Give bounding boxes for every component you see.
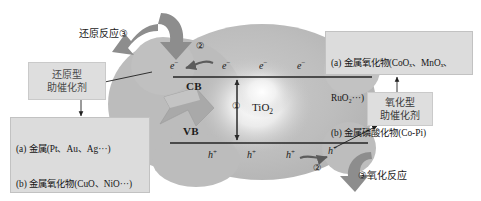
oxidation-material-item: RuO₂···) xyxy=(331,93,468,105)
electron-carrier: e− xyxy=(222,59,230,71)
reduction-cocatalyst-line1: 还原型 xyxy=(52,68,82,81)
reduction-materials-box[interactable]: (a) 金属(Pt、Au、Ag···) (b) 金属氧化物(CuO、NiO···… xyxy=(10,117,150,193)
reduction-cocatalyst-box[interactable]: 还原型 助催化剂 xyxy=(28,62,106,100)
hole-carrier: h+ xyxy=(208,148,217,160)
conduction-band-label: CB xyxy=(186,80,202,92)
electron-carrier: e− xyxy=(170,59,178,71)
electron-carrier: e− xyxy=(297,59,305,71)
semiconductor-formula: TiO2 xyxy=(252,101,273,116)
step-electron-migration-number: ② xyxy=(196,40,205,51)
oxidation-reaction-label: ③氧化反应 xyxy=(358,167,407,182)
reduction-reaction-label: 还原反应③ xyxy=(79,25,128,40)
oxidation-materials-box[interactable]: (a) 金属氧化物(CoOₓ、MnOₓ、 RuO₂···) (b) 金属磷酸化物… xyxy=(325,31,473,75)
step-hole-migration-number: ② xyxy=(313,162,322,173)
hole-carrier: h+ xyxy=(286,148,295,160)
valence-band-label: VB xyxy=(183,125,199,137)
reduction-material-item: (a) 金属(Pt、Au、Ag···) xyxy=(16,144,145,156)
photocatalysis-diagram: CB VB TiO2 ① ② ② e− e− e− e− h+ h+ h+ h+… xyxy=(0,0,481,201)
oxidation-material-item: (a) 金属氧化物(CoOₓ、MnOₓ、 xyxy=(331,58,468,70)
hole-migration-arrow xyxy=(300,157,327,158)
oxidation-material-item: (b) 金属磷酸化物(Co-Pi) xyxy=(331,128,468,140)
electron-carrier: e− xyxy=(259,59,267,71)
hole-carrier: h+ xyxy=(247,148,256,160)
step-excitation-number: ① xyxy=(232,100,241,111)
reduction-material-item: (b) 金属氧化物(CuO、NiO···) xyxy=(16,179,145,191)
reduction-cocatalyst-line2: 助催化剂 xyxy=(47,81,87,94)
